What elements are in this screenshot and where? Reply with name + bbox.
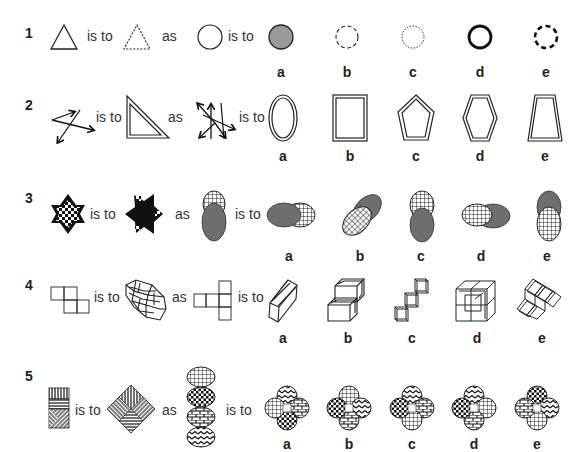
circle-long-dashed-icon [334, 24, 360, 50]
six-arrows-icon [193, 101, 237, 141]
is-to-text: is to [235, 206, 261, 222]
double-line-trapezoid-icon [527, 94, 563, 142]
is-to-text: is to [226, 402, 252, 418]
clover-wave-grid-brick-dots-icon [451, 385, 497, 431]
option-label: e [527, 436, 547, 452]
circle-thick-outline-icon [467, 24, 493, 50]
wireframe-diagonal-cubes-icon [393, 277, 429, 323]
clover-wave-brick-grid-dots-icon [389, 385, 435, 431]
option-label: e [537, 248, 557, 264]
as-text: as [175, 206, 190, 222]
option-label: b [339, 436, 359, 452]
as-text: as [172, 289, 187, 305]
four-patterned-ovals-stack-icon [186, 366, 216, 448]
grid-oval-left-gray-right-icon [461, 202, 511, 230]
option-label: a [273, 330, 293, 346]
wireframe-tilted-cluster-icon [515, 277, 563, 321]
option-label: c [406, 148, 426, 164]
circle-short-dashed-icon [400, 24, 426, 50]
option-label: b [350, 248, 370, 264]
checkered-star-icon [50, 193, 86, 235]
question-number: 1 [25, 25, 33, 41]
option-label: c [402, 436, 422, 452]
question-number: 5 [25, 368, 33, 384]
as-text: as [162, 402, 177, 418]
option-label: e [532, 330, 552, 346]
grid-oval-over-gray-diagonal-icon [341, 193, 385, 237]
question-number: 3 [25, 190, 33, 206]
striped-diamond-icon [106, 384, 156, 434]
as-text: as [168, 109, 183, 125]
wireframe-box-icon [268, 279, 298, 323]
grid-oval-bottom-gray-top-icon [535, 190, 563, 242]
option-label: a [279, 248, 299, 264]
option-label: c [411, 248, 431, 264]
black-star-rotated-icon [124, 193, 164, 235]
wireframe-cube-cluster-icon [455, 279, 497, 323]
net-five-squares-icon [193, 280, 233, 322]
clover-wave-brick-dots-grid-icon [264, 385, 310, 431]
is-to-text: is to [96, 109, 122, 125]
double-line-hexagon-icon [462, 94, 498, 142]
option-label: e [536, 64, 556, 80]
question-number: 4 [25, 277, 33, 293]
circle-solid-outline-icon [197, 24, 223, 50]
option-label: d [471, 248, 491, 264]
gray-oval-over-grid-oval-icon [200, 190, 228, 242]
option-label: d [470, 64, 490, 80]
option-label: a [273, 148, 293, 164]
wireframe-cube-stack-icon [124, 279, 168, 321]
option-label: d [464, 436, 484, 452]
striped-rectangle-icon [48, 387, 70, 429]
is-to-text: is to [238, 289, 264, 305]
gray-oval-left-grid-right-icon [267, 200, 317, 230]
as-text: as [162, 28, 177, 44]
circle-gray-filled-icon [268, 24, 294, 50]
double-line-right-triangle-icon [125, 94, 171, 140]
option-label: e [535, 148, 555, 164]
net-four-squares-icon [50, 286, 90, 314]
triangle-dashed-outline-icon [123, 24, 151, 50]
double-line-rectangle-icon [332, 94, 368, 142]
option-label: b [337, 64, 357, 80]
triangle-solid-outline-icon [50, 24, 78, 50]
option-label: a [271, 64, 291, 80]
circle-thick-dashed-icon [533, 24, 559, 50]
option-label: b [338, 330, 358, 346]
is-to-text: is to [239, 109, 265, 125]
option-label: d [470, 148, 490, 164]
clover-dots-wave-grid-brick-icon [514, 385, 560, 431]
is-to-text: is to [90, 206, 116, 222]
is-to-text: is to [75, 402, 101, 418]
option-label: c [403, 64, 423, 80]
gray-oval-bottom-grid-top-icon [408, 190, 436, 242]
is-to-text: is to [87, 28, 113, 44]
double-line-oval-icon [268, 94, 298, 142]
question-number: 2 [25, 97, 33, 113]
option-label: c [402, 330, 422, 346]
option-label: a [277, 436, 297, 452]
clover-grid-wave-brick-dots-icon [326, 385, 372, 431]
double-line-pentagon-icon [397, 94, 435, 142]
three-arrows-icon [50, 108, 94, 144]
option-label: b [340, 148, 360, 164]
is-to-text: is to [228, 28, 254, 44]
wireframe-stair-cubes-icon [327, 277, 367, 323]
is-to-text: is to [94, 289, 120, 305]
option-label: d [467, 330, 487, 346]
